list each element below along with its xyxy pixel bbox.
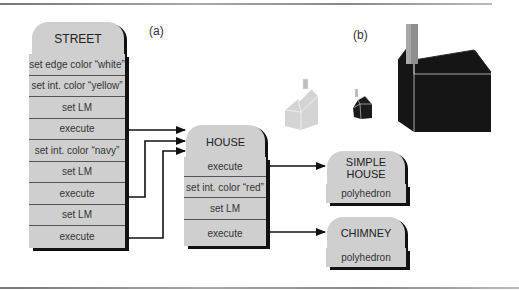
rendered-houses — [0, 0, 519, 290]
red-house-large-icon — [398, 24, 491, 132]
navy-house-small-icon — [353, 89, 372, 119]
white-yellow-house-icon — [285, 79, 318, 130]
